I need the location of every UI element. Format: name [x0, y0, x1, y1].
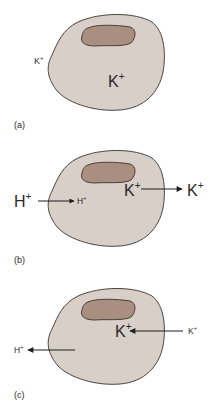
- nucleus: [82, 162, 135, 183]
- diagram-canvas: K+ K+ (a) H+ H+ K+ K+ (b) K+: [0, 0, 216, 412]
- panel-label-b: (b): [14, 255, 25, 265]
- panel-c: K+ K+ H+ (c): [14, 289, 197, 401]
- panel-a: K+ K+ (a): [14, 15, 164, 131]
- h-ion-outside-label: H+: [14, 344, 23, 355]
- panel-b: H+ H+ K+ K+ (b): [14, 151, 204, 266]
- panel-label-c: (c): [14, 390, 25, 400]
- h-ion-outside-label: H+: [14, 191, 32, 210]
- nucleus: [82, 25, 135, 46]
- k-ion-outside-label: K+: [187, 180, 204, 199]
- panel-label-a: (a): [14, 120, 25, 130]
- k-ion-outside-label: K+: [34, 55, 44, 66]
- nucleus: [82, 299, 135, 320]
- k-ion-outside-label: K+: [188, 325, 197, 336]
